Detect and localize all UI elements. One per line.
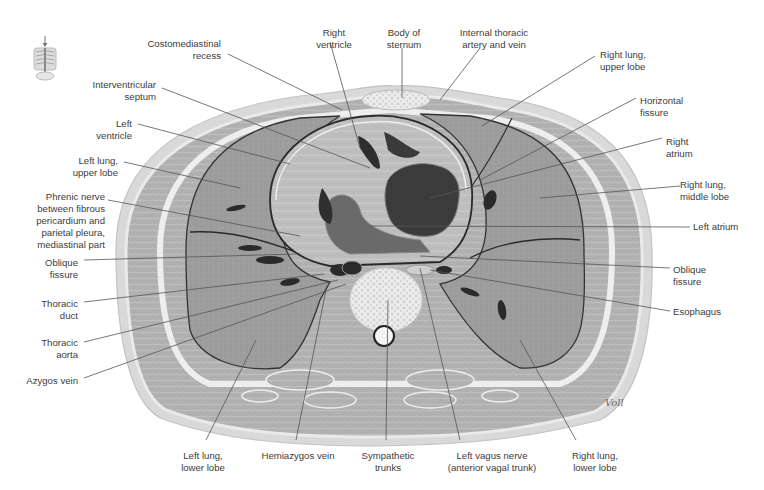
label-right-lung-upper-lobe: Right lung, upper lobe [600,49,646,73]
vertebral-body [350,268,422,332]
anatomical-figure: Voll Costomediastinal recess Interventri… [0,0,764,490]
label-right-ventricle: Right ventricle [306,27,362,51]
label-thoracic-aorta: Thoracic aorta [41,337,78,361]
thorax-cross-section-illustration [0,0,764,490]
spinal-canal [374,326,394,346]
label-right-lung-middle-lobe: Right lung, middle lobe [680,179,729,203]
label-left-vagus-nerve: Left vagus nerve (anterior vagal trunk) [436,450,548,474]
label-left-ventricle: Left ventricle [96,118,132,142]
label-azygos-vein: Azygos vein [26,375,78,387]
label-left-lung-upper-lobe: Left lung, upper lobe [73,155,118,179]
label-left-lung-lower-lobe: Left lung, lower lobe [168,450,238,474]
label-interventricular-septum: Interventricular septum [93,79,156,103]
label-internal-thoracic-artery-vein: Internal thoracic artery and vein [444,27,544,51]
label-esophagus: Esophagus [673,306,721,318]
label-hemiazygos-vein: Hemiazygos vein [250,450,346,462]
label-sympathetic-trunks: Sympathetic trunks [350,450,426,474]
sternum [362,90,430,110]
label-oblique-fissure-left: Oblique fissure [45,257,78,281]
label-left-atrium: Left atrium [693,221,738,233]
label-oblique-fissure-right: Oblique fissure [673,264,706,288]
label-right-lung-lower-lobe: Right lung, lower lobe [560,450,630,474]
right-atrium [385,164,459,237]
label-body-of-sternum: Body of sternum [376,27,432,51]
label-right-atrium: Right atrium [666,136,693,160]
label-thoracic-duct: Thoracic duct [41,298,78,322]
artist-signature: Voll [605,397,624,408]
label-phrenic-nerve: Phrenic nerve between fibrous pericardiu… [36,191,105,251]
label-horizontal-fissure: Horizontal fissure [640,95,683,119]
label-costomediastinal-recess: Costomediastinal recess [147,38,221,62]
